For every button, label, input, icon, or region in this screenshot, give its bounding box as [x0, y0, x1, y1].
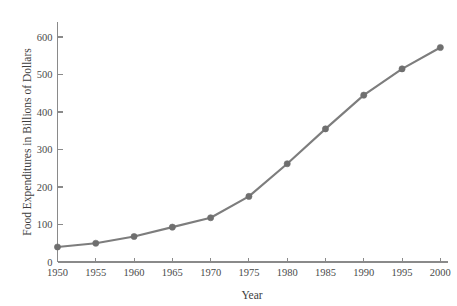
y-tick-label: 400	[37, 107, 53, 118]
y-tick-label: 500	[37, 69, 53, 80]
y-tick-label: 100	[37, 219, 53, 230]
x-axis-title: Year	[241, 289, 262, 301]
x-tick-label: 1960	[124, 267, 145, 278]
data-point-marker	[169, 224, 175, 230]
chart-canvas: 0100200300400500600 19501955196019651970…	[0, 0, 457, 306]
x-tick-label: 1975	[238, 267, 259, 278]
x-tick-label: 1955	[85, 267, 106, 278]
y-tick-label: 200	[37, 182, 53, 193]
x-tick-label: 1990	[353, 267, 374, 278]
data-point-marker	[322, 126, 328, 132]
axes	[58, 22, 449, 262]
line-chart-figure: 0100200300400500600 19501955196019651970…	[0, 0, 457, 306]
data-series-line	[58, 48, 441, 248]
chart-page: 0100200300400500600 19501955196019651970…	[0, 0, 457, 306]
data-point-marker	[131, 233, 137, 239]
data-point-marker	[361, 92, 367, 98]
data-point-marker	[284, 161, 290, 167]
data-point-marker	[399, 66, 405, 72]
y-axis-title: Food Expenditures in Billions of Dollars	[21, 48, 34, 236]
x-tick-label: 1985	[315, 267, 336, 278]
y-tick-label: 0	[47, 257, 52, 268]
x-tick-label: 1965	[162, 267, 183, 278]
data-point-marker	[246, 193, 252, 199]
x-tick-label: 2000	[430, 267, 451, 278]
x-axis-ticks: 1950195519601965197019751980198519901995…	[47, 258, 451, 278]
y-axis-ticks: 0100200300400500600	[37, 32, 63, 268]
data-point-marker	[93, 240, 99, 246]
data-point-marker	[437, 44, 443, 50]
x-tick-label: 1995	[392, 267, 413, 278]
x-tick-label: 1950	[47, 267, 68, 278]
y-tick-label: 600	[37, 32, 53, 43]
x-tick-label: 1980	[277, 267, 298, 278]
x-tick-label: 1970	[200, 267, 221, 278]
data-point-marker	[54, 244, 60, 250]
data-point-marker	[208, 215, 214, 221]
data-series-points	[54, 44, 443, 250]
y-tick-label: 300	[37, 144, 53, 155]
